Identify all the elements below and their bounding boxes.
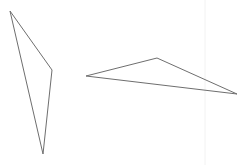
diagram-canvas [0, 0, 247, 165]
triangle-left [10, 11, 52, 154]
triangle-right [86, 58, 237, 94]
